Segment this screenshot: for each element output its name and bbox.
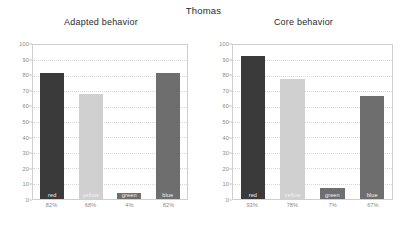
bar-group[interactable]: blue bbox=[360, 45, 385, 199]
bars-core-behavior: redyellowgreenblue bbox=[233, 45, 392, 199]
bar-red[interactable]: red bbox=[40, 73, 64, 199]
bars-adapted-behavior: redyellowgreenblue bbox=[33, 45, 187, 199]
bar-category-label: yellow bbox=[79, 192, 103, 198]
bar-group[interactable]: red bbox=[241, 45, 266, 199]
bar-category-label: red bbox=[241, 192, 266, 198]
bar-blue[interactable]: blue bbox=[360, 96, 385, 199]
bar-category-label: green bbox=[320, 192, 345, 198]
x-tick-value-label: 4% bbox=[110, 202, 149, 208]
bar-yellow[interactable]: yellow bbox=[79, 94, 103, 199]
chart-panel-core-behavior: Core behavior 0102030405060708090100 red… bbox=[206, 0, 401, 236]
bar-category-label: red bbox=[40, 192, 64, 198]
bar-group[interactable]: green bbox=[117, 45, 141, 199]
x-tick-value-label: 67% bbox=[353, 202, 393, 208]
bar-green[interactable]: green bbox=[320, 188, 345, 199]
x-tick-value-label: 82% bbox=[149, 202, 188, 208]
x-tick-value-label: 82% bbox=[32, 202, 71, 208]
bar-blue[interactable]: blue bbox=[156, 73, 180, 199]
y-axis-adapted-behavior: 0102030405060708090100 bbox=[6, 44, 32, 200]
bar-category-label: blue bbox=[360, 192, 385, 198]
bar-green[interactable]: green bbox=[117, 193, 141, 199]
bar-category-label: blue bbox=[156, 192, 180, 198]
bar-group[interactable]: green bbox=[320, 45, 345, 199]
x-tick-value-label: 68% bbox=[71, 202, 110, 208]
chart-title-core-behavior: Core behavior bbox=[206, 17, 401, 27]
plot-area-adapted-behavior: redyellowgreenblue bbox=[32, 44, 188, 200]
bar-group[interactable]: yellow bbox=[79, 45, 103, 199]
chart-panel-adapted-behavior: Adapted behavior 0102030405060708090100 … bbox=[6, 0, 196, 236]
plot-area-core-behavior: redyellowgreenblue bbox=[232, 44, 393, 200]
y-axis-core-behavior: 0102030405060708090100 bbox=[206, 44, 232, 200]
x-tick-value-label: 7% bbox=[313, 202, 353, 208]
chart-title-adapted-behavior: Adapted behavior bbox=[6, 17, 196, 27]
x-axis-core-behavior: 93%78%7%67% bbox=[232, 202, 393, 214]
x-axis-adapted-behavior: 82%68%4%82% bbox=[32, 202, 188, 214]
bar-yellow[interactable]: yellow bbox=[280, 79, 305, 199]
y-tick-label: 100 bbox=[19, 41, 29, 47]
y-tick-label: 100 bbox=[219, 41, 229, 47]
bar-category-label: yellow bbox=[280, 192, 305, 198]
x-tick-value-label: 93% bbox=[232, 202, 272, 208]
bar-group[interactable]: red bbox=[40, 45, 64, 199]
x-tick-value-label: 78% bbox=[272, 202, 312, 208]
bar-group[interactable]: yellow bbox=[280, 45, 305, 199]
bar-group[interactable]: blue bbox=[156, 45, 180, 199]
bar-category-label: green bbox=[117, 192, 141, 198]
figure: Thomas Adapted behavior 0102030405060708… bbox=[0, 0, 407, 236]
bar-red[interactable]: red bbox=[241, 56, 266, 199]
